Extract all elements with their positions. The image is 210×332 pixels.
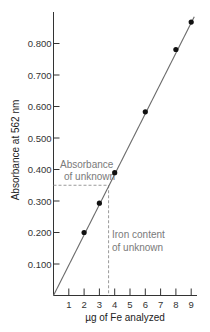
annotation-iron-line2: of unknown (112, 242, 163, 253)
y-ticks: 0.1000.2000.3000.4000.5000.6000.7000.800 (28, 38, 60, 270)
x-tick-label: 8 (173, 299, 178, 310)
calibration-line (54, 17, 195, 296)
y-tick-label: 0.100 (28, 259, 52, 270)
data-points (82, 19, 194, 235)
data-point (112, 170, 117, 175)
y-tick-label: 0.200 (28, 227, 52, 238)
x-tick-label: 9 (189, 299, 194, 310)
annotation-iron-line1: Iron content (112, 229, 165, 240)
x-tick-label: 7 (158, 299, 163, 310)
annotation-absorbance-line1: Absorbance (60, 159, 114, 170)
calibration-chart: 0.1000.2000.3000.4000.5000.6000.7000.800… (0, 0, 210, 332)
x-tick-label: 4 (112, 299, 117, 310)
x-tick-label: 6 (143, 299, 148, 310)
y-tick-label: 0.700 (28, 70, 52, 81)
annotation-absorbance-line2: of unknown (64, 171, 115, 182)
data-point (82, 230, 87, 235)
x-tick-label: 2 (81, 299, 86, 310)
y-tick-label: 0.600 (28, 101, 52, 112)
x-tick-label: 1 (66, 299, 71, 310)
data-point (173, 47, 178, 52)
data-point (143, 109, 148, 114)
y-tick-label: 0.400 (28, 164, 52, 175)
y-tick-label: 0.800 (28, 38, 52, 49)
annotations: Absorbance of unknown Iron content of un… (54, 159, 166, 296)
data-point (189, 19, 194, 24)
y-axis-title: Absorbance at 562 nm (10, 100, 21, 201)
y-tick-label: 0.300 (28, 196, 52, 207)
x-ticks: 123456789 (66, 289, 194, 310)
data-point (97, 201, 102, 206)
y-tick-label: 0.500 (28, 133, 52, 144)
x-axis-title: µg of Fe analyzed (85, 312, 165, 323)
x-tick-label: 3 (97, 299, 102, 310)
x-tick-label: 5 (127, 299, 132, 310)
